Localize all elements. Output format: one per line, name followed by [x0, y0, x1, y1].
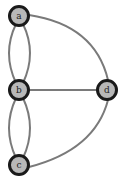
edge-c-d: [29, 100, 108, 167]
node-c[interactable]: c: [10, 156, 29, 175]
edge-a-d: [29, 15, 108, 80]
node-a-label: a: [16, 11, 22, 21]
edge-b-c-right: [23, 98, 30, 158]
graph-diagram: a b d c: [0, 0, 123, 188]
node-d[interactable]: d: [98, 81, 117, 100]
node-c-label: c: [16, 160, 21, 170]
node-b-label: b: [16, 85, 22, 95]
node-a[interactable]: a: [10, 7, 29, 26]
node-d-label: d: [104, 85, 110, 95]
edge-b-c-left: [9, 98, 16, 158]
edge-a-b-left: [9, 24, 16, 83]
edge-a-b-right: [23, 24, 30, 83]
node-b[interactable]: b: [10, 81, 29, 100]
